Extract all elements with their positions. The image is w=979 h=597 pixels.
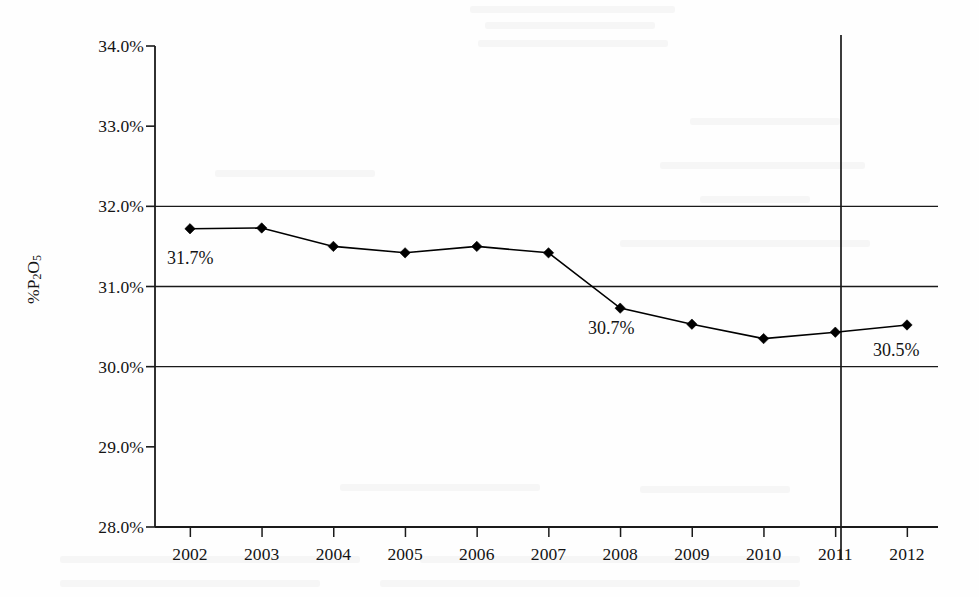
x-axis-tick-label: 2002 (150, 546, 230, 564)
data-point-annotation: 31.7% (167, 249, 214, 267)
data-point-marker (687, 319, 697, 329)
data-point-marker (472, 241, 482, 251)
x-axis-tick-label: 2003 (222, 546, 302, 564)
data-point-marker (830, 327, 840, 337)
x-axis-tick-label: 2007 (509, 546, 589, 564)
y-axis-tick-label: 29.0% (40, 439, 144, 457)
x-axis-tick-label: 2004 (293, 546, 373, 564)
series-markers-group (185, 223, 912, 344)
x-axis-tick-label: 2010 (724, 546, 804, 564)
x-axis-tick-label: 2008 (580, 546, 660, 564)
y-axis-tick-label: 33.0% (40, 118, 144, 136)
data-point-marker (902, 320, 912, 330)
y-axis-ticks (146, 46, 155, 527)
data-point-marker (185, 224, 195, 234)
x-axis-tick-label: 2011 (795, 546, 875, 564)
y-axis-tick-label: 31.0% (40, 279, 144, 297)
y-axis-tick-label: 28.0% (40, 519, 144, 537)
line-chart-plot (0, 0, 979, 597)
y-axis-tick-label: 30.0% (40, 359, 144, 377)
data-point-marker (758, 333, 768, 343)
x-axis-ticks (190, 527, 907, 537)
data-point-marker (328, 241, 338, 251)
data-point-annotation: 30.5% (873, 341, 920, 359)
y-axis-tick-label: 34.0% (40, 38, 144, 56)
x-axis-tick-label: 2012 (867, 546, 947, 564)
data-point-marker (400, 248, 410, 258)
x-axis-tick-label: 2005 (365, 546, 445, 564)
y-axis-tick-label: 32.0% (40, 198, 144, 216)
data-point-annotation: 30.7% (588, 319, 635, 337)
chart-page: %P2O5 34.0%33.0%32.0%31.0%30.0%29.0%28.0… (0, 0, 979, 597)
series-line-p2o5 (190, 228, 907, 339)
x-axis-tick-label: 2009 (652, 546, 732, 564)
data-point-marker (257, 223, 267, 233)
x-axis-tick-label: 2006 (437, 546, 517, 564)
